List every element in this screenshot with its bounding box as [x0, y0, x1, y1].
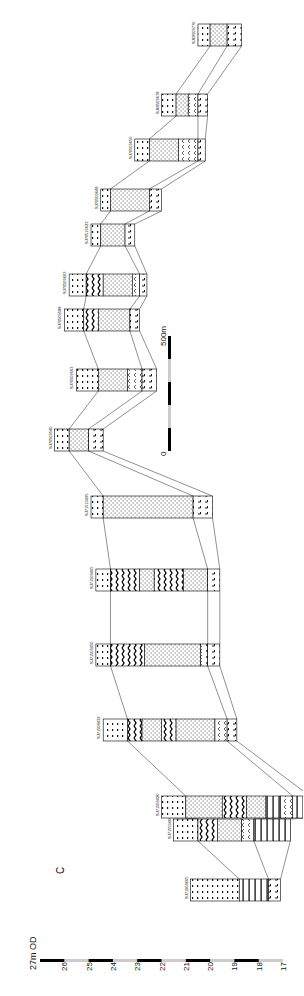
- unit-gravel: [86, 274, 103, 296]
- unit-bedrock: [239, 879, 268, 901]
- unit-gravel: [84, 309, 99, 331]
- borehole-label: SJ71509420: [155, 793, 160, 816]
- unit-made_ground: [208, 569, 220, 591]
- unit-sand: [69, 429, 88, 451]
- unit-made_ground: [198, 139, 205, 161]
- borehole-label: SJ70510623: [84, 221, 89, 244]
- axis-tick-label: 25: [85, 962, 94, 971]
- unit-made_ground: [227, 719, 237, 741]
- unit-made_ground: [125, 224, 135, 246]
- correlation-line: [69, 451, 103, 496]
- unit-made_ground: [208, 644, 220, 666]
- correlation-line: [227, 741, 293, 796]
- correlation-line: [208, 666, 227, 719]
- scale-bar: [168, 336, 171, 451]
- unit-sand: [176, 94, 188, 116]
- correlation-line: [176, 46, 210, 94]
- axis-segment: [186, 959, 210, 962]
- unit-clay: [69, 274, 86, 296]
- unit-gravel: [154, 569, 183, 591]
- unit-sand: [110, 189, 149, 211]
- unit-bedrock: [254, 819, 290, 841]
- unit-gravel: [222, 796, 246, 818]
- unit-made_ground: [142, 369, 157, 391]
- unit-made_ground: [149, 189, 161, 211]
- unit-peat: [132, 274, 139, 296]
- elevation-axis: 26252423222120191817: [40, 959, 288, 971]
- unit-peat: [179, 139, 198, 161]
- axis-tick-label: 17: [279, 962, 288, 971]
- borehole-SJ71509465: SJ71509465: [89, 566, 220, 591]
- correlation-line: [103, 451, 212, 496]
- unit-made_ground: [268, 879, 280, 901]
- unit-sand: [98, 369, 127, 391]
- axis-tick-label: 18: [255, 962, 264, 971]
- scale-bar-segment: [168, 405, 171, 428]
- correlation-line: [162, 161, 206, 189]
- scale-bar-segment: [168, 336, 171, 359]
- axis-segment: [234, 959, 258, 962]
- section-label: C: [55, 867, 66, 874]
- unit-sand: [210, 24, 227, 46]
- correlation-line: [198, 841, 239, 879]
- unit-sand: [98, 309, 130, 331]
- borehole-SJ71604605: SJ71604605: [184, 876, 281, 901]
- unit-clay: [91, 496, 103, 518]
- scale-bar-end-label: 500m: [159, 326, 168, 346]
- unit-sand: [183, 569, 207, 591]
- borehole-label: SJ71509450: [89, 641, 94, 664]
- correlation-line: [84, 331, 99, 369]
- correlation-line: [140, 296, 147, 309]
- unit-gravel: [162, 719, 177, 741]
- unit-peat: [242, 819, 254, 841]
- unit-made_ground: [140, 274, 147, 296]
- unit-clay: [101, 189, 111, 211]
- unit-clay: [174, 819, 198, 841]
- unit-made_ground: [227, 24, 242, 46]
- unit-made_ground: [193, 496, 212, 518]
- scale-bar-segment: [168, 359, 171, 382]
- unit-clay: [64, 309, 83, 331]
- unit-clay: [91, 224, 101, 246]
- borehole-SJ70509540: SJ70509540: [48, 426, 104, 451]
- correlation-line: [135, 211, 162, 224]
- correlation-line: [127, 741, 185, 796]
- unit-sand: [140, 569, 155, 591]
- borehole-label: SJ69509678: [155, 91, 160, 114]
- borehole-SJ71509420: SJ71509420: [155, 793, 304, 818]
- unit-peat: [200, 644, 207, 666]
- borehole-SJ71550466: SJ71550466: [167, 816, 291, 841]
- axis-tick-label: 23: [133, 962, 142, 971]
- axis-segment: [137, 959, 161, 962]
- borehole-label: SJ71510495: [84, 493, 89, 516]
- unit-sand: [176, 719, 215, 741]
- axis-tick-label: 22: [158, 962, 167, 971]
- borehole-label: SJ70509563: [69, 366, 74, 389]
- unit-sand: [247, 796, 266, 818]
- unit-clay: [96, 569, 111, 591]
- correlation-line: [101, 211, 111, 224]
- borehole-SJ70510623: SJ70510623: [84, 221, 135, 246]
- correlation-line: [110, 161, 149, 189]
- borehole-label: SJ69509770: [191, 21, 196, 44]
- correlation-line: [89, 451, 193, 496]
- correlation-line: [125, 211, 149, 224]
- borehole-SJ69509770: SJ69509770: [191, 21, 242, 46]
- unit-sand: [101, 224, 125, 246]
- axis-tick-label: 21: [182, 962, 191, 971]
- borehole-SJ70509648: SJ70509648: [94, 186, 162, 211]
- correlation-line: [84, 296, 86, 309]
- correlation-line: [125, 246, 140, 274]
- unit-clay: [135, 139, 150, 161]
- unit-clay: [55, 429, 70, 451]
- correlation-line: [103, 391, 156, 429]
- unit-made_ground: [198, 94, 208, 116]
- unit-clay: [96, 644, 111, 666]
- borehole-label: SJ70509648: [94, 186, 99, 209]
- axis-tick-label: 20: [206, 962, 215, 971]
- borehole-label: SJ71604605: [184, 876, 189, 899]
- borehole-SJ70509650: SJ70509650: [128, 136, 205, 161]
- unit-sand: [142, 719, 161, 741]
- scale-bar-start-label: 0: [159, 451, 168, 456]
- correlation-lines: [69, 46, 303, 879]
